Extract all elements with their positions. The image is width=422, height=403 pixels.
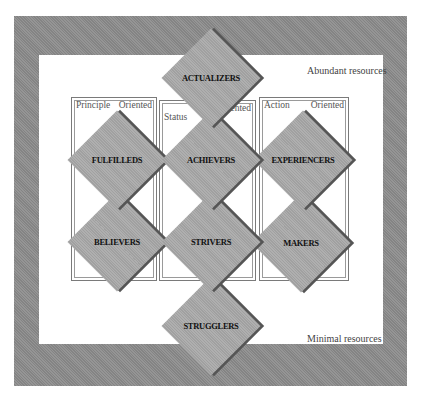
segment-label: ACHIEVERS (161, 155, 261, 165)
segment-fulfilleds: FULFILLEDS (67, 110, 167, 210)
segment-label: STRUGGLERS (161, 321, 261, 331)
segment-actualizers: ACTUALIZERS (161, 28, 261, 128)
segment-label: EXPERIENCERS (253, 155, 353, 165)
segment-label: MAKERS (251, 238, 351, 248)
abundant-resources-label: Abundant resources (307, 66, 387, 76)
minimal-resources-label: Minimal resources (307, 334, 382, 344)
segment-label: BELIEVERS (67, 237, 167, 247)
segment-label: ACTUALIZERS (161, 73, 261, 83)
segment-label: FULFILLEDS (67, 155, 167, 165)
segment-experiencers: EXPERIENCERS (253, 110, 353, 210)
segment-label: STRIVERS (161, 237, 261, 247)
